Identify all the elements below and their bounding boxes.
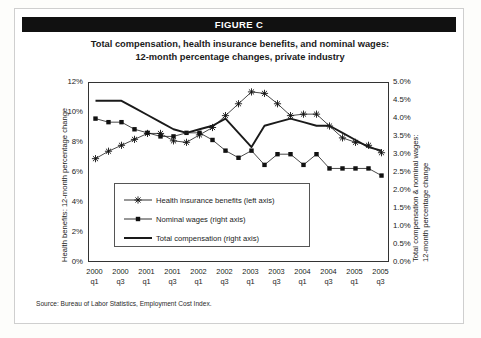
star-marker-icon [92, 155, 99, 162]
square-marker-icon [171, 134, 175, 138]
x-axis-tick-year: 2005 [364, 267, 398, 277]
source-note: Source: Bureau of Labor Statistics, Empl… [36, 300, 212, 307]
star-marker-icon [183, 139, 190, 146]
star-marker-icon [313, 111, 320, 118]
legend-item-label: Health insurance benefits (left axis) [156, 196, 275, 205]
legend-item-label: Nominal wages (right axis) [156, 215, 245, 224]
legend-item-label: Total compensation (right axis) [156, 234, 259, 243]
right-axis-tick: 0.0% [393, 257, 423, 266]
square-marker-icon [275, 152, 279, 156]
left-axis-tick: 6% [57, 167, 83, 176]
left-axis-tick: 10% [57, 107, 83, 116]
star-marker-icon [248, 88, 255, 95]
left-axis-title: Health benefits: 12-month percentage cha… [60, 108, 69, 262]
right-axis-tick: 5.0% [393, 77, 423, 86]
chart-legend: Health insurance benefits (left axis)Nom… [114, 183, 310, 247]
square-marker-icon [301, 163, 305, 167]
figure-page: FIGURE C Total compensation, health insu… [0, 0, 481, 338]
right-axis-tick: 1.0% [393, 221, 423, 230]
right-axis-tick: 4.0% [393, 113, 423, 122]
left-axis-tick: 2% [57, 227, 83, 236]
figure-banner-label: FIGURE C [215, 19, 264, 30]
square-marker-icon [236, 156, 240, 160]
square-marker-icon [106, 120, 110, 124]
left-axis-tick: 0% [57, 257, 83, 266]
square-marker-icon [223, 148, 227, 152]
square-marker-icon [366, 166, 370, 170]
right-axis-tick: 0.5% [393, 239, 423, 248]
square-marker-icon [210, 138, 214, 142]
square-marker-icon [379, 173, 383, 177]
series-line [96, 119, 382, 176]
star-marker-icon [235, 100, 242, 107]
right-axis-tick: 2.5% [393, 167, 423, 176]
x-axis-tick-quarter: q3 [364, 277, 398, 287]
legend-item-total-compensation[interactable]: Total compensation (right axis) [123, 231, 259, 245]
square-marker-icon [197, 131, 201, 135]
square-marker-icon [314, 152, 318, 156]
star-marker-icon [261, 90, 268, 97]
square-marker-icon [123, 213, 153, 225]
right-axis-tick: 3.5% [393, 131, 423, 140]
series-star-left [92, 88, 385, 162]
square-marker-icon [249, 148, 253, 152]
series-square-right [93, 116, 383, 177]
page-title: Total compensation, health insurance ben… [40, 38, 440, 63]
left-axis-tick: 12% [57, 77, 83, 86]
star-marker-icon [274, 100, 281, 107]
x-axis-tick: 2005q3 [364, 267, 398, 286]
square-marker-icon [262, 163, 266, 167]
star-marker-icon [118, 142, 125, 149]
square-marker-icon [132, 127, 136, 131]
square-marker-icon [93, 116, 97, 120]
left-axis-tick: 4% [57, 197, 83, 206]
series-none-right [96, 101, 382, 151]
square-marker-icon [145, 131, 149, 135]
star-marker-icon [339, 134, 346, 141]
chart-title-line-2: 12-month percentage changes, private ind… [40, 51, 440, 64]
star-marker-icon [131, 136, 138, 143]
square-marker-icon [327, 166, 331, 170]
right-axis-tick: 3.0% [393, 149, 423, 158]
star-marker-icon [123, 194, 153, 206]
series-line [96, 101, 382, 151]
square-marker-icon [158, 134, 162, 138]
right-axis-tick: 1.5% [393, 203, 423, 212]
star-marker-icon [105, 148, 112, 155]
square-marker-icon [288, 152, 292, 156]
figure-banner: FIGURE C [22, 17, 456, 32]
legend-item-health-insurance-benefits[interactable]: Health insurance benefits (left axis) [123, 193, 275, 207]
right-axis-tick: 2.0% [393, 185, 423, 194]
square-marker-icon [340, 166, 344, 170]
left-axis-tick: 8% [57, 137, 83, 146]
right-axis-tick: 4.5% [393, 95, 423, 104]
square-marker-icon [119, 120, 123, 124]
line-marker-icon [123, 232, 153, 244]
square-marker-icon [353, 166, 357, 170]
legend-item-nominal-wages[interactable]: Nominal wages (right axis) [123, 212, 245, 226]
star-marker-icon [300, 111, 307, 118]
chart-title-line-1: Total compensation, health insurance ben… [40, 38, 440, 51]
